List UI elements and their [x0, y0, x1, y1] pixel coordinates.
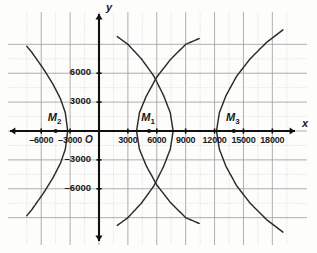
axis-arrow-down — [95, 236, 102, 241]
point-marker-M_2 — [54, 129, 58, 133]
x-tick-label: –3000 — [58, 135, 82, 145]
y-tick-label: 6000 — [70, 66, 91, 77]
point-label-M_3: M3 — [226, 111, 240, 126]
point-marker-M_3 — [232, 129, 236, 133]
x-tick-label: 6000 — [147, 135, 166, 145]
y-tick-label: –3000 — [65, 153, 91, 164]
x-tick-label: 3000 — [118, 135, 137, 145]
axes — [10, 14, 295, 241]
point-label-M_1: M1 — [141, 111, 155, 126]
y-tick-label: 3000 — [70, 95, 91, 106]
origin-label: O — [85, 134, 93, 145]
y-tick-label: –6000 — [65, 182, 91, 193]
x-tick-label: 15000 — [231, 135, 255, 145]
point-label-M_2: M2 — [48, 111, 62, 126]
y-axis-label: y — [106, 1, 112, 13]
axis-arrow-up — [95, 14, 102, 19]
coordinate-plot — [0, 0, 317, 253]
x-tick-label: 12000 — [203, 135, 227, 145]
x-tick-label: 9000 — [176, 135, 195, 145]
x-tick-label: –6000 — [29, 135, 53, 145]
x-axis-label: x — [302, 117, 308, 129]
x-tick-label: 18000 — [260, 135, 284, 145]
axis-arrow-right — [290, 127, 295, 134]
point-marker-M_1 — [147, 129, 151, 133]
graph-figure: –6000–3000300060009000120001500018000600… — [0, 0, 317, 253]
axis-arrow-left — [10, 127, 15, 134]
curve-path-lower — [216, 131, 282, 232]
